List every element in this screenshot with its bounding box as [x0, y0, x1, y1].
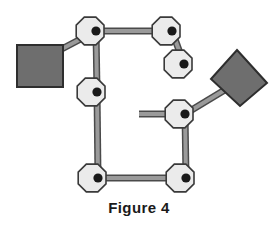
block-layer [17, 45, 267, 106]
edge-layer [56, 31, 228, 178]
node-hub-dot [91, 26, 100, 35]
node-middle-left [77, 78, 105, 106]
node-top-left [76, 17, 104, 45]
node-hub-dot [180, 109, 189, 118]
node-hub-dot [167, 26, 176, 35]
node-hub-dot [92, 87, 101, 96]
node-top-right [152, 17, 180, 45]
square-block-left [17, 45, 63, 87]
node-middle-right [165, 100, 193, 128]
figure-caption: Figure 4 [0, 199, 278, 216]
figure-container: Figure 4 [0, 0, 278, 237]
node-pendant-right [164, 50, 192, 78]
node-hub-dot [181, 173, 190, 182]
node-bottom-right [166, 164, 194, 192]
node-hub-dot [179, 59, 188, 68]
node-hub-dot [93, 173, 102, 182]
node-bottom-left [78, 164, 106, 192]
kite-block-right [211, 50, 267, 106]
